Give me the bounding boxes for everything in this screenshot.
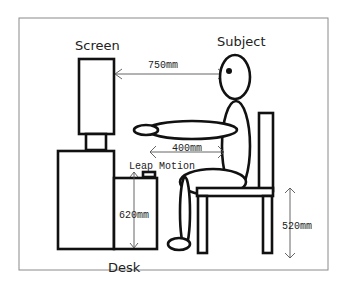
- subject-label: Subject: [217, 34, 266, 49]
- desk-label: Desk: [108, 260, 141, 275]
- screen-to-eye-label: 750mm: [148, 60, 178, 71]
- desk-height-label: 620mm: [119, 210, 149, 221]
- chair-height-label: 520mm: [282, 221, 312, 232]
- hand-to-body-label: 400mm: [172, 143, 202, 154]
- leap-motion-label: Leap Motion: [129, 161, 195, 172]
- screen-label: Screen: [75, 38, 120, 53]
- experiment-setup-diagram: Screen Leap Motion 620mm Desk 750mm Subj…: [0, 0, 356, 300]
- leap-motion-device: [143, 172, 155, 177]
